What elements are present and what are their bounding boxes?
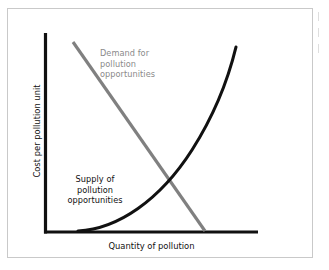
- crop-mark: [318, 44, 319, 53]
- supply-demand-plot: [0, 0, 329, 270]
- demand-curve-label: Demand for pollution opportunities: [100, 48, 178, 80]
- x-axis-label: Quantity of pollution: [44, 241, 259, 251]
- page-crop-marks: [316, 12, 326, 58]
- crop-mark: [318, 28, 319, 37]
- figure-root: Demand for pollution opportunities Suppl…: [0, 0, 329, 270]
- supply-curve-label: Supply of pollution opportunities: [60, 174, 130, 206]
- y-axis-label: Cost per pollution unit: [32, 56, 42, 206]
- crop-mark: [318, 12, 319, 21]
